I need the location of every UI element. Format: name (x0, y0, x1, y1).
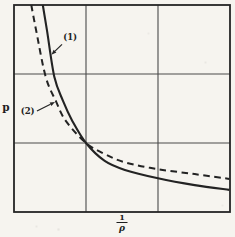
x-axis-label: 1 ρ (117, 213, 128, 233)
pv-diagram-figure: p 1 ρ (1) (2) (0, 0, 235, 237)
curve-2-label: (2) (21, 106, 35, 116)
x-axis-label-denominator: ρ (117, 224, 128, 233)
y-axis-label: p (2, 101, 9, 113)
curve-1-label: (1) (63, 32, 77, 42)
plot-canvas (0, 0, 235, 237)
scan-speckles (0, 0, 1, 1)
x-axis-label-numerator: 1 (117, 213, 128, 221)
